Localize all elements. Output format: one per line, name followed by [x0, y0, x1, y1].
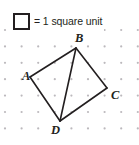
vertex-label-d: D [51, 124, 60, 137]
vertex-label-c: C [111, 89, 119, 102]
vertex-label-layer: ABCD [0, 0, 139, 145]
dot-grid-figure: = 1 square unit ABCD [0, 0, 139, 145]
vertex-label-b: B [75, 32, 83, 45]
vertex-label-a: A [22, 70, 30, 83]
